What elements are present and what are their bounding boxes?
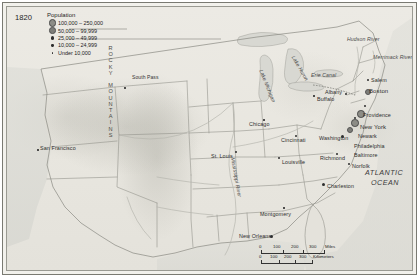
scale-tick-0: 0 bbox=[259, 244, 261, 249]
label-washington: Washington bbox=[319, 136, 348, 141]
label-cincinnati: Cincinnati bbox=[281, 138, 306, 143]
scale-unit-kilometers: Kilometers bbox=[313, 254, 334, 259]
legend-row: 50,000 – 99,999 bbox=[47, 27, 103, 34]
scale-ruler-kilometers bbox=[261, 260, 313, 264]
map-canvas: 1820 Population 100,000 – 250,000 50,000… bbox=[6, 6, 413, 271]
legend-title: Population bbox=[47, 12, 103, 18]
red-river bbox=[157, 207, 213, 215]
label-rocky-mountains: ROCKY MOUNTAINS bbox=[107, 45, 113, 138]
scale-bar-kilometers: 0 100 200 300 Kilometers bbox=[255, 255, 335, 264]
label-south-pass: South Pass bbox=[132, 75, 159, 80]
label-chicago: Chicago bbox=[249, 122, 269, 127]
legend: Population 100,000 – 250,000 50,000 – 99… bbox=[47, 12, 103, 56]
scale-tick-300: 300 bbox=[309, 244, 316, 249]
rio-grande bbox=[127, 197, 151, 239]
scale-km-tick-100: 100 bbox=[270, 254, 277, 259]
label-new-york: New York bbox=[360, 124, 386, 130]
legend-symbol-dot-xl bbox=[47, 19, 58, 27]
legend-symbol-dot-lg bbox=[47, 27, 58, 33]
map-year: 1820 bbox=[15, 13, 32, 22]
legend-symbol-dot-sm bbox=[47, 44, 58, 46]
marker-south-pass bbox=[124, 87, 126, 89]
scale-bar-miles: 0 100 200 300 Miles bbox=[255, 245, 335, 254]
label-atlantic-ocean-line2: OCEAN bbox=[371, 179, 399, 186]
label-merrimack-river: Merrimack River bbox=[373, 55, 412, 60]
label-providence: Providence bbox=[363, 113, 391, 118]
scale-km-tick-0: 0 bbox=[259, 254, 261, 259]
label-norfolk: Norfolk bbox=[352, 164, 370, 169]
population-map-1820: 1820 Population 100,000 – 250,000 50,000… bbox=[0, 0, 419, 277]
label-louisville: Louisville bbox=[282, 160, 305, 165]
legend-label: 50,000 – 99,999 bbox=[58, 28, 97, 34]
label-charleston: Charleston bbox=[327, 184, 354, 189]
marker-montgomery[interactable] bbox=[283, 207, 285, 209]
label-baltimore: Baltimore bbox=[354, 153, 378, 158]
label-boston: Boston bbox=[369, 88, 388, 94]
label-san-francisco: San Francisco bbox=[40, 146, 76, 151]
scale-tick-100: 100 bbox=[273, 244, 280, 249]
label-new-orleans: New Orleans bbox=[239, 234, 271, 239]
lake-erie bbox=[288, 82, 324, 91]
scale-ruler-miles bbox=[261, 250, 325, 254]
label-atlantic-ocean-line1: ATLANTIC bbox=[365, 169, 403, 176]
label-erie-canal: Erie Canal bbox=[311, 73, 336, 78]
legend-symbol-dot-xs bbox=[47, 52, 58, 54]
legend-label: 25,000 – 49,999 bbox=[58, 35, 97, 41]
scale-unit-miles: Miles bbox=[325, 244, 335, 249]
arkansas-river bbox=[157, 177, 219, 185]
map-neatline: 1820 Population 100,000 – 250,000 50,000… bbox=[2, 2, 417, 275]
legend-label: Under 10,000 bbox=[58, 50, 91, 56]
label-montgomery: Montgomery bbox=[260, 212, 291, 217]
label-st-louis: St. Louis bbox=[211, 154, 233, 159]
hudson-river bbox=[355, 47, 359, 95]
legend-symbol-dot-md bbox=[47, 36, 58, 39]
legend-row: 100,000 – 250,000 bbox=[47, 20, 103, 27]
legend-row: 25,000 – 49,999 bbox=[47, 34, 103, 41]
label-richmond: Richmond bbox=[320, 156, 345, 161]
label-salem: Salem bbox=[371, 78, 387, 83]
legend-row: 10,000 – 24,999 bbox=[47, 42, 103, 49]
legend-label: 10,000 – 24,999 bbox=[58, 42, 97, 48]
label-albany: Albany bbox=[325, 90, 342, 95]
label-philadelphia: Philadelphia bbox=[354, 144, 385, 149]
label-buffalo: Buffalo bbox=[317, 97, 334, 102]
pacific-ocean bbox=[7, 67, 51, 247]
marker-philadelphia[interactable] bbox=[351, 119, 359, 127]
scale-km-tick-200: 200 bbox=[284, 254, 291, 259]
missouri-river bbox=[119, 103, 233, 139]
label-newark: Newark bbox=[358, 134, 377, 139]
scale-km-tick-300: 300 bbox=[299, 254, 306, 259]
legend-row: Under 10,000 bbox=[47, 49, 103, 56]
marker-buffalo[interactable] bbox=[313, 95, 315, 97]
legend-label: 100,000 – 250,000 bbox=[58, 20, 103, 26]
marker-san-francisco[interactable] bbox=[37, 149, 39, 151]
scale-bar: 0 100 200 300 Miles 0 100 200 300 Kilome… bbox=[255, 245, 335, 264]
scale-tick-200: 200 bbox=[291, 244, 298, 249]
label-hudson-river: Hudson River bbox=[347, 37, 380, 42]
